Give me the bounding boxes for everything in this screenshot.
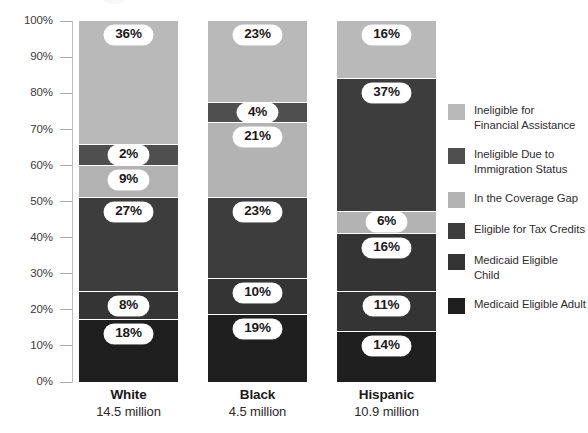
bar-segment[interactable]: 19% — [208, 315, 307, 382]
y-axis-tick-label: 80% — [30, 87, 53, 99]
y-axis-tick-label: 0% — [37, 376, 53, 388]
legend-item-label: Medicaid Eligible Adult — [474, 297, 586, 312]
bar-segment[interactable]: 16% — [337, 234, 436, 292]
bar-segment[interactable]: 21% — [208, 123, 307, 198]
x-axis-labels: White14.5 millionBlack4.5 millionHispani… — [73, 386, 428, 430]
segment-value-label: 16% — [362, 25, 410, 45]
segment-value-label: 2% — [108, 145, 149, 165]
x-axis-category-name: Hispanic — [337, 386, 436, 403]
x-axis-label-hispanic: Hispanic10.9 million — [337, 386, 436, 421]
segment-value-label: 6% — [366, 212, 407, 232]
bar-segment[interactable]: 8% — [79, 292, 178, 320]
bar-segment[interactable]: 9% — [79, 166, 178, 198]
x-axis-category-count: 10.9 million — [337, 404, 436, 421]
segment-value-label: 36% — [104, 25, 152, 45]
legend-item-label: Eligible for Tax Credits — [474, 222, 585, 237]
stacked-bar-chart: 100%90%80%70%60%50%40%30%20%10%0% 36%2%9… — [0, 0, 588, 433]
segment-value-label: 9% — [108, 170, 149, 190]
segment-value-label: 23% — [233, 25, 281, 45]
bar-segment[interactable]: 14% — [337, 332, 436, 382]
x-axis-label-white: White14.5 million — [79, 386, 178, 421]
legend-item[interactable]: Medicaid Eligible Child — [448, 253, 586, 283]
y-axis-tick-label: 10% — [30, 340, 53, 352]
segment-value-label: 21% — [233, 127, 281, 147]
bar-white[interactable]: 36%2%9%27%8%18% — [79, 21, 178, 382]
legend-item-label: Medicaid Eligible Child — [474, 253, 586, 283]
y-axis-tick-label: 50% — [30, 196, 53, 208]
segment-value-label: 10% — [233, 283, 281, 303]
segment-value-label: 18% — [104, 324, 152, 344]
legend-color-swatch — [448, 192, 465, 208]
bar-segment[interactable]: 2% — [79, 145, 178, 166]
y-axis-tick-label: 70% — [30, 124, 53, 136]
bar-segment[interactable]: 11% — [337, 292, 436, 332]
bar-black[interactable]: 23%4%21%23%10%19% — [208, 21, 307, 382]
segment-value-label: 8% — [108, 296, 149, 316]
y-axis-tick-label: 60% — [30, 160, 53, 172]
legend-item-label: Ineligible forFinancial Assistance — [474, 103, 575, 133]
plot-area: 36%2%9%27%8%18%23%4%21%23%10%19%16%37%6%… — [73, 21, 428, 382]
x-axis-category-name: Black — [208, 386, 307, 403]
bar-segment[interactable]: 27% — [79, 198, 178, 292]
bar-segment[interactable]: 23% — [208, 198, 307, 280]
bar-segment[interactable]: 10% — [208, 279, 307, 315]
bar-hispanic[interactable]: 16%37%6%16%11%14% — [337, 21, 436, 382]
legend-color-swatch — [448, 298, 465, 314]
y-axis-tick-label: 100% — [24, 15, 53, 27]
y-axis-tick-label: 30% — [30, 268, 53, 280]
bar-segment[interactable]: 6% — [337, 212, 436, 234]
bar-segment[interactable]: 16% — [337, 21, 436, 79]
bar-segment[interactable]: 36% — [79, 21, 178, 145]
segment-value-label: 23% — [233, 202, 281, 222]
x-axis-category-name: White — [79, 386, 178, 403]
y-axis-tick-label: 20% — [30, 304, 53, 316]
legend-color-swatch — [448, 148, 465, 164]
bar-segment[interactable]: 37% — [337, 79, 436, 212]
y-axis: 100%90%80%70%60%50%40%30%20%10%0% — [0, 21, 73, 382]
legend-item[interactable]: In the Coverage Gap — [448, 191, 586, 208]
bar-segment[interactable]: 18% — [79, 320, 178, 382]
segment-value-label: 16% — [362, 238, 410, 258]
legend-item-label: In the Coverage Gap — [474, 191, 578, 206]
legend-color-swatch — [448, 223, 465, 239]
legend-item[interactable]: Eligible for Tax Credits — [448, 222, 586, 239]
legend-item[interactable]: Medicaid Eligible Adult — [448, 297, 586, 314]
x-axis-category-count: 14.5 million — [79, 404, 178, 421]
bar-segment[interactable]: 23% — [208, 21, 307, 103]
segment-value-label: 11% — [363, 296, 411, 316]
legend-color-swatch — [448, 104, 465, 120]
legend: Ineligible forFinancial AssistanceInelig… — [448, 103, 586, 314]
x-axis-category-count: 4.5 million — [208, 404, 307, 421]
x-axis-label-black: Black4.5 million — [208, 386, 307, 421]
legend-color-swatch — [448, 254, 465, 270]
legend-item[interactable]: Ineligible forFinancial Assistance — [448, 103, 586, 133]
legend-item[interactable]: Ineligible Due toImmigration Status — [448, 147, 586, 177]
segment-value-label: 14% — [362, 336, 410, 356]
segment-value-label: 27% — [104, 202, 152, 222]
y-axis-tick-label: 90% — [30, 51, 53, 63]
segment-value-label: 19% — [233, 319, 281, 339]
top-edge-artifact — [103, 0, 125, 4]
segment-value-label: 4% — [237, 103, 278, 123]
bar-segment[interactable]: 4% — [208, 103, 307, 124]
segment-value-label: 37% — [362, 83, 410, 103]
legend-item-label: Ineligible Due toImmigration Status — [474, 147, 567, 177]
y-axis-tick-label: 40% — [30, 232, 53, 244]
